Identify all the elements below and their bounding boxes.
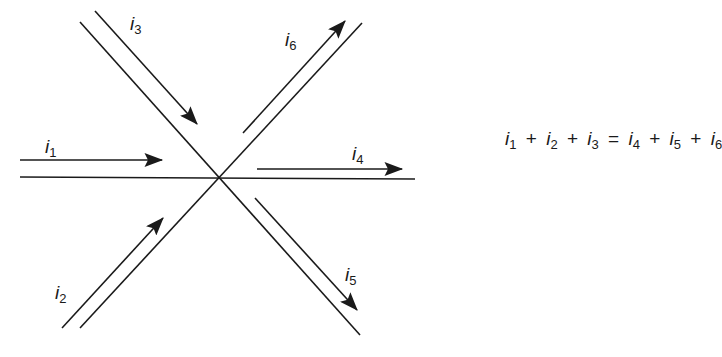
label-i5: i5: [345, 265, 356, 287]
label-i6: i6: [285, 30, 296, 52]
label-i3: i3: [130, 14, 141, 36]
label-i1: i1: [45, 137, 56, 159]
arrow-i2: [62, 218, 163, 328]
label-i2: i2: [55, 283, 66, 305]
label-i4: i4: [352, 144, 363, 166]
arrow-i3: [95, 11, 197, 124]
arrow-i5: [255, 198, 357, 310]
kcl-equation: i1 + i2 + i3 = i4 + i5 + i6: [505, 128, 722, 152]
